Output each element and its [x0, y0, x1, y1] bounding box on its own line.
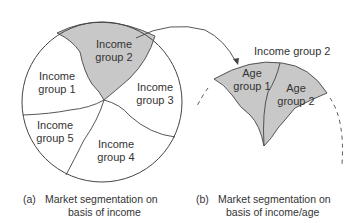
label-line: group 1 — [32, 83, 82, 96]
label-line: Income — [91, 138, 141, 151]
income-group-3-label: Income group 3 — [130, 81, 180, 107]
label-line: Income — [130, 81, 180, 94]
caption-tag: (a) — [23, 193, 45, 206]
label-line: Income — [30, 119, 80, 132]
label-line: group 4 — [91, 151, 141, 164]
dashed-circle-arc-right — [330, 98, 343, 164]
age-group-1-label: Age group 1 — [232, 67, 272, 93]
caption-line: Market segmentation on — [45, 193, 158, 205]
label-line: Age — [276, 82, 316, 95]
caption-line: basis of income — [23, 206, 158, 219]
caption-tag: (b) — [196, 193, 218, 206]
income-group-2-label: Income group 2 — [89, 38, 139, 64]
label-line: Income — [89, 38, 139, 51]
label-line: group 3 — [130, 94, 180, 107]
caption-b: (b)Market segmentation on basis of incom… — [196, 193, 331, 219]
wedge-title: Income group 2 — [254, 45, 330, 58]
label-line: group 1 — [232, 80, 272, 93]
income-group-5-label: Income group 5 — [30, 119, 80, 145]
label-line: group 5 — [30, 132, 80, 145]
caption-a: (a)Market segmentation on basis of incom… — [23, 193, 158, 219]
label-line: group 2 — [89, 51, 139, 64]
caption-line: Market segmentation on — [218, 193, 331, 205]
label-line: group 2 — [276, 95, 316, 108]
divider-1-5 — [23, 100, 104, 115]
caption-line: basis of income/age — [196, 206, 331, 219]
income-group-1-label: Income group 1 — [32, 70, 82, 96]
arrow-head-icon — [233, 58, 239, 65]
age-group-2-label: Age group 2 — [276, 82, 316, 108]
segmentation-diagram — [0, 0, 359, 223]
income-group-4-label: Income group 4 — [91, 138, 141, 164]
label-line: Income — [32, 70, 82, 83]
dashed-circle-arc-left — [196, 88, 208, 108]
label-line: Age — [232, 67, 272, 80]
